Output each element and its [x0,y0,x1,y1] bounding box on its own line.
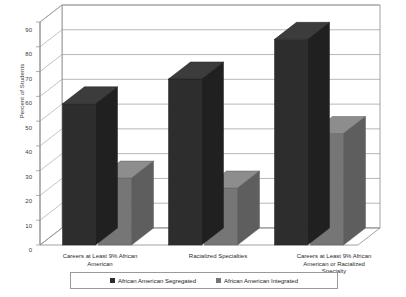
legend-swatch-icon-segregated [110,278,115,283]
legend-item-segregated: African American Segregated [110,278,196,284]
legend-label-integrated: African American Integrated [224,278,298,284]
legend-item-integrated: African American Integrated [216,278,298,284]
legend-label-segregated: African American Segregated [118,278,196,284]
chart-legend: African American Segregated African Amer… [70,272,338,289]
x-category-label-2: Racialized Specialties [168,253,268,261]
x-category-label-1: Careers at Least 9% AfricanAmerican [44,253,156,268]
bar-chart: Percent of Students 90 80 70 60 50 40 30… [0,0,406,297]
legend-swatch-icon-integrated [216,278,221,283]
